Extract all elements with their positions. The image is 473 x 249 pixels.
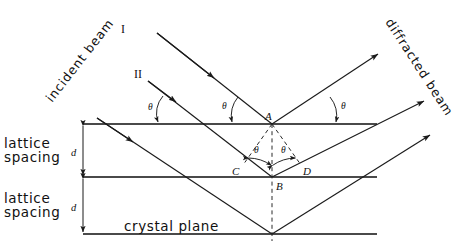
bragg-diagram-canvas: A B C D I II θ θ θ θ θ d d lattice spaci… xyxy=(0,0,473,249)
label-ray-II: II xyxy=(134,67,142,81)
label-lattice-spacing-lower-line2: spacing xyxy=(4,204,60,220)
label-lattice-spacing-upper-line2: spacing xyxy=(4,149,60,165)
label-d-lower: d xyxy=(71,202,77,213)
label-point-C: C xyxy=(232,165,240,177)
angle-arc-theta-left-outer xyxy=(156,96,163,122)
label-theta-BAD: θ xyxy=(281,145,286,155)
label-crystal-plane: crystal plane xyxy=(124,218,219,234)
incident-ray-III-arrowhead xyxy=(97,118,133,142)
incident-ray-I-arrowhead xyxy=(157,33,214,78)
label-d-upper: d xyxy=(71,147,77,158)
incident-ray-II-arrowhead xyxy=(148,81,176,102)
angle-arc-theta-left-inner xyxy=(231,97,238,122)
label-point-D: D xyxy=(302,165,311,177)
label-theta-left-outer: θ xyxy=(148,102,153,112)
bragg-diffraction-figure: A B C D I II θ θ θ θ θ d d lattice spaci… xyxy=(0,0,473,249)
diffracted-rays-group xyxy=(272,54,430,234)
label-point-B: B xyxy=(276,180,283,192)
label-point-A: A xyxy=(264,110,272,122)
label-incident-beam: incident beam xyxy=(43,16,117,105)
diffracted-ray-from-A xyxy=(272,54,378,124)
construction-lines-group xyxy=(243,124,301,241)
angle-arc-theta-right xyxy=(330,97,337,122)
label-ray-I: I xyxy=(121,22,125,36)
label-theta-CAB: θ xyxy=(254,145,259,155)
diffracted-ray-from-B xyxy=(272,101,424,177)
incident-rays-group xyxy=(97,33,272,234)
label-theta-left-inner: θ xyxy=(222,101,227,111)
label-theta-right-outer: θ xyxy=(341,101,346,111)
diffracted-ray-from-bottom xyxy=(272,135,430,234)
angle-arc-BAD xyxy=(272,158,295,166)
